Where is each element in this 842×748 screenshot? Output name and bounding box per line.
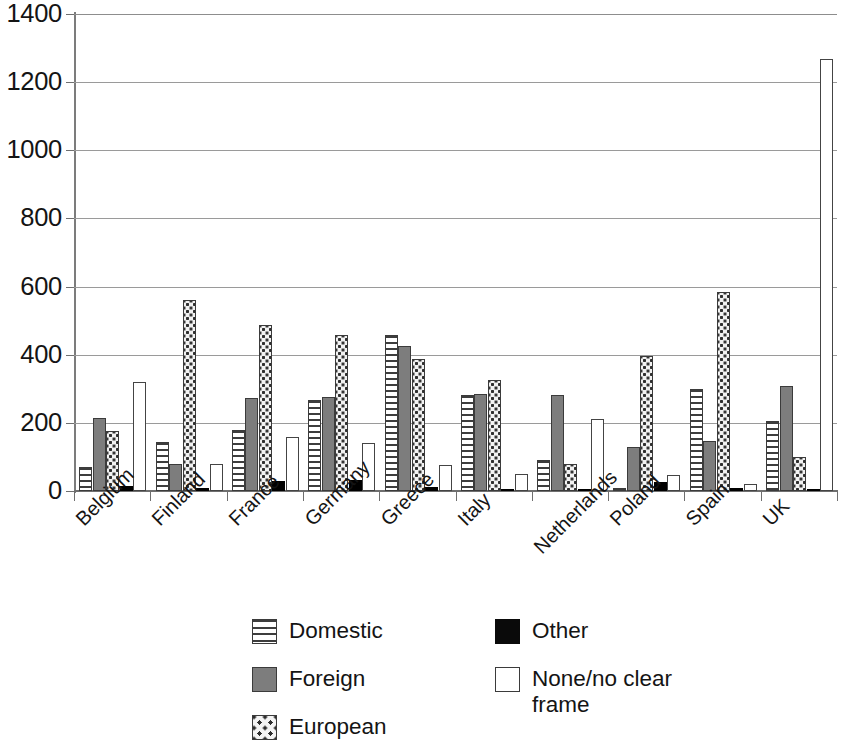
legend-swatch-none-icon — [495, 667, 520, 692]
legend-swatch-domestic-icon — [252, 619, 277, 644]
x-axis-tick-mark — [227, 491, 228, 501]
legend-label: Domestic — [289, 618, 383, 644]
x-axis-tick-mark — [74, 491, 75, 501]
x-axis-label-italy: Italy — [453, 489, 493, 529]
bar-european — [488, 380, 501, 491]
bar-none — [515, 474, 528, 491]
bar-domestic — [79, 467, 92, 491]
legend-item-none[interactable]: None/no clear frame — [495, 666, 707, 718]
bar-group-italy — [456, 14, 532, 491]
legend-swatch-foreign-icon — [252, 667, 277, 692]
bar-foreign — [398, 346, 411, 491]
legend-item-foreign[interactable]: Foreign — [252, 666, 365, 692]
y-axis-tick-label: 0 — [48, 478, 62, 504]
bar-domestic — [537, 460, 550, 491]
bar-group-belgium — [74, 14, 150, 491]
bar-none — [744, 484, 757, 491]
x-axis-tick-mark — [761, 491, 762, 501]
bar-group-spain — [684, 14, 760, 491]
plot-area — [74, 14, 837, 491]
x-axis-tick-mark — [303, 491, 304, 501]
bar-european — [717, 292, 730, 491]
bar-domestic — [690, 389, 703, 491]
y-axis-tick-label: 400 — [20, 342, 62, 368]
x-axis-tick-mark — [532, 491, 533, 501]
bar-none — [210, 464, 223, 491]
legend-label: Other — [532, 618, 588, 644]
chart-legend: DomesticForeignEuropeanOtherNone/no clea… — [252, 618, 722, 742]
x-axis-tick-mark — [379, 491, 380, 501]
bar-other — [730, 488, 743, 491]
legend-swatch-european-icon — [252, 715, 277, 740]
bar-none — [286, 437, 299, 492]
bar-european — [259, 325, 272, 491]
bar-none — [439, 465, 452, 491]
bar-domestic — [613, 488, 626, 491]
bar-group-finland — [150, 14, 226, 491]
bar-domestic — [766, 421, 779, 491]
bar-foreign — [245, 398, 258, 491]
bar-foreign — [474, 394, 487, 491]
bar-domestic — [461, 395, 474, 491]
x-axis-tick-mark — [837, 491, 838, 501]
bar-domestic — [308, 400, 321, 491]
y-axis-tick-label: 800 — [20, 205, 62, 231]
bar-group-poland — [608, 14, 684, 491]
bar-foreign — [551, 395, 564, 491]
x-axis-tick-mark — [684, 491, 685, 501]
y-axis-labels: 1400120010008006004002000 — [0, 0, 62, 520]
bar-none — [820, 59, 833, 491]
y-axis-tick-label: 200 — [20, 410, 62, 436]
bar-none — [133, 382, 146, 491]
legend-label: European — [289, 714, 387, 740]
bar-group-greece — [379, 14, 455, 491]
bar-group-france — [227, 14, 303, 491]
x-axis-tick-mark — [150, 491, 151, 501]
bar-domestic — [385, 335, 398, 491]
legend-swatch-other-icon — [495, 619, 520, 644]
x-axis-label-uk: UK — [759, 495, 793, 529]
bar-other — [501, 489, 514, 491]
legend-label: None/no clear frame — [532, 666, 707, 718]
bar-european — [793, 457, 806, 491]
y-axis-tick-label: 1200 — [6, 69, 62, 95]
bar-domestic — [232, 430, 245, 491]
y-axis-tick-label: 1400 — [6, 1, 62, 27]
y-axis-tick-label: 1000 — [6, 137, 62, 163]
bar-group-netherlands — [532, 14, 608, 491]
legend-item-domestic[interactable]: Domestic — [252, 618, 383, 644]
bar-none — [667, 475, 680, 491]
bar-group-germany — [303, 14, 379, 491]
legend-item-european[interactable]: European — [252, 714, 387, 740]
bar-european — [564, 464, 577, 491]
chart-page: 1400120010008006004002000 BelgiumFinland… — [0, 0, 842, 748]
bar-foreign — [780, 386, 793, 491]
bar-european — [183, 300, 196, 491]
legend-item-other[interactable]: Other — [495, 618, 588, 644]
bar-domestic — [156, 442, 169, 491]
x-axis-tick-mark — [456, 491, 457, 501]
y-axis-tick-label: 600 — [20, 274, 62, 300]
bar-other — [807, 489, 820, 491]
legend-label: Foreign — [289, 666, 365, 692]
bar-group-uk — [761, 14, 837, 491]
bar-foreign — [322, 397, 335, 491]
